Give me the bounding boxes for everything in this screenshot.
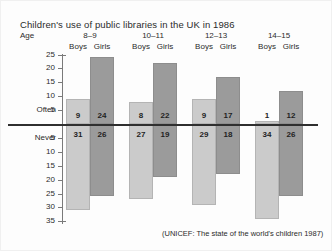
group-age-header: 8–9 xyxy=(54,31,126,40)
bar-value: 24 xyxy=(90,111,114,120)
often-label: Often xyxy=(22,105,56,114)
subgroup-label-girls: Girls xyxy=(212,42,244,51)
bar-value: 8 xyxy=(129,111,153,120)
bar-value: 17 xyxy=(216,111,240,120)
y-tick-mark xyxy=(58,110,62,111)
group-age-header: 10–11 xyxy=(117,31,189,40)
y-tick-label: 35 xyxy=(35,216,55,225)
bar-value: 22 xyxy=(153,111,177,120)
y-tick-mark xyxy=(58,166,62,167)
y-tick-mark xyxy=(58,82,62,83)
y-axis-cap xyxy=(62,221,66,222)
never-label: Never xyxy=(22,133,56,142)
subgroup-label-girls: Girls xyxy=(275,42,307,51)
bar-value: 12 xyxy=(279,111,303,120)
bar-value: 18 xyxy=(216,130,240,139)
y-tick-mark xyxy=(58,138,62,139)
bar-value: 29 xyxy=(192,130,216,139)
y-tick-label: 30 xyxy=(35,202,55,211)
bar-value: 31 xyxy=(66,130,90,139)
chart-title: Children's use of public libraries in th… xyxy=(20,19,235,30)
bar-value: 1 xyxy=(255,111,279,120)
subgroup-label-girls: Girls xyxy=(149,42,181,51)
y-tick-label: 15 xyxy=(35,161,55,170)
y-tick-mark xyxy=(58,68,62,69)
y-axis-line xyxy=(62,54,63,224)
bar-value: 27 xyxy=(129,130,153,139)
y-tick-label: 20 xyxy=(35,63,55,72)
bar-value: 9 xyxy=(66,111,90,120)
y-tick-mark xyxy=(58,207,62,208)
y-tick-mark xyxy=(58,96,62,97)
group-age-header: 12–13 xyxy=(180,31,252,40)
bar-value: 19 xyxy=(153,130,177,139)
y-axis-cap xyxy=(62,55,66,56)
y-tick-label: 10 xyxy=(35,147,55,156)
y-tick-mark xyxy=(58,194,62,195)
source-credit: (UNICEF: The state of the world's childr… xyxy=(162,229,323,238)
subgroup-label-girls: Girls xyxy=(86,42,118,51)
y-tick-mark xyxy=(58,152,62,153)
y-tick-mark xyxy=(58,180,62,181)
bar-value: 9 xyxy=(192,111,216,120)
y-tick-label: 15 xyxy=(35,77,55,86)
y-tick-label: 25 xyxy=(35,189,55,198)
bar-value: 26 xyxy=(279,130,303,139)
y-tick-label: 20 xyxy=(35,175,55,184)
y-tick-label: 25 xyxy=(35,50,55,59)
bar-value: 26 xyxy=(90,130,114,139)
age-axis-label: Age xyxy=(20,31,34,40)
zero-baseline xyxy=(8,124,318,126)
bar-value: 34 xyxy=(255,130,279,139)
chart-figure: Children's use of public libraries in th… xyxy=(0,0,332,251)
y-tick-label: 10 xyxy=(35,91,55,100)
group-age-header: 14–15 xyxy=(243,31,315,40)
